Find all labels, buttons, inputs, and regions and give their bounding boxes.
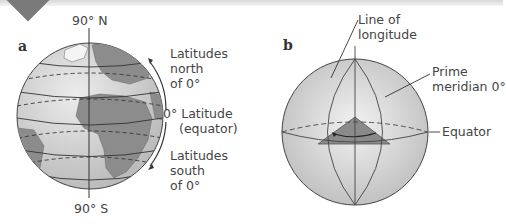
south-latitudes-label: Latitudes south of 0° [170,148,228,193]
longitude-line-2: longitude [358,27,417,42]
prime-meridian-line-1: Prime [432,64,506,79]
south-lat-line-2: south [170,163,228,178]
globe-a [17,28,166,198]
north-pole-label: 90° N [72,13,107,28]
globe-b [282,20,440,205]
longitude-label: Line of longitude [358,12,417,42]
prime-meridian-label: Prime meridian 0° [432,64,506,94]
longitude-line-1: Line of [358,12,417,27]
prime-meridian-line-2: meridian 0° [432,79,506,94]
south-lat-line-3: of 0° [170,178,228,193]
panel-letter-a: a [18,38,27,54]
equator-latitude-label: 0° Latitude [163,106,233,121]
south-pole-label: 90° S [74,201,108,216]
equator-label: Equator [442,124,491,139]
south-lat-line-1: Latitudes [170,148,228,163]
north-lat-line-1: Latitudes [170,46,228,61]
north-lat-line-2: north [170,61,228,76]
north-lat-line-3: of 0° [170,76,228,91]
equator-sub-label: (equator) [179,121,238,136]
panel-letter-b: b [283,37,293,53]
north-latitudes-label: Latitudes north of 0° [170,46,228,91]
